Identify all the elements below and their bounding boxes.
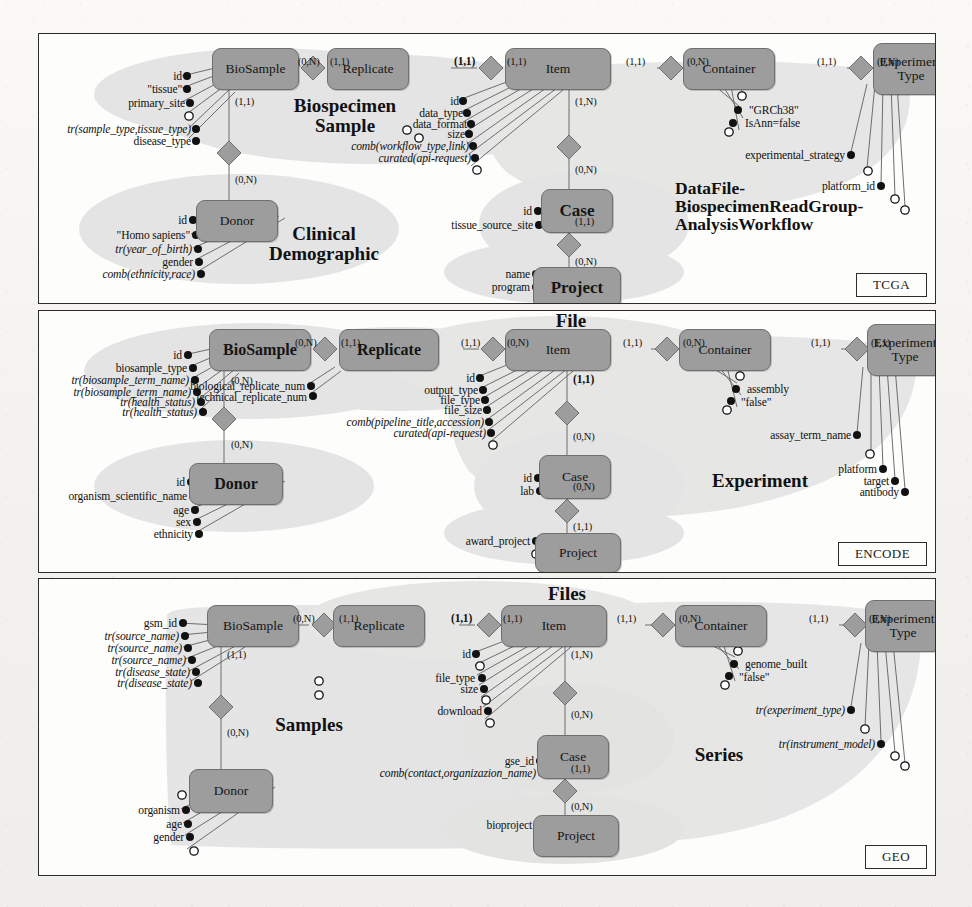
entity-case[interactable]: Case	[539, 455, 611, 499]
region-files: Files	[517, 584, 617, 604]
attribute-label: id	[178, 214, 187, 227]
source-tag-tcga: TCGA	[856, 273, 927, 297]
cardinality: (0,N)	[227, 727, 248, 738]
attribute-label: IsAnn=false	[745, 117, 800, 130]
attribute-label: "false"	[739, 671, 769, 684]
cardinality: (0,N)	[683, 337, 704, 348]
attribute-label: tr(disease_state)	[117, 677, 192, 690]
entity-container[interactable]: Container	[683, 48, 775, 90]
attribute-label: id	[462, 648, 471, 661]
attribute-label: tissue_source_site	[451, 219, 533, 232]
attribute-label: tr(year_of_birth)	[115, 243, 192, 256]
attribute-label: lab	[520, 485, 534, 498]
cardinality: (0,N)	[687, 56, 708, 67]
attribute-label: bioproject	[486, 819, 532, 832]
attribute-label: assembly	[747, 383, 789, 396]
region-file: File	[531, 311, 611, 331]
attribute-label: gender	[153, 831, 184, 844]
cardinality: (0,N)	[507, 337, 528, 348]
entity-project[interactable]: Project	[533, 815, 619, 857]
attribute-label: assay_term_name	[770, 429, 851, 442]
cardinality: (0,N)	[575, 256, 596, 267]
panel-geo: BioSample Replicate Item Container Exper…	[38, 578, 936, 876]
attribute-label: platform_id	[822, 180, 875, 193]
attribute-label: tr(health_status)	[122, 406, 197, 419]
cardinality: (1,1)	[339, 613, 358, 624]
cardinality: (0,N)	[231, 439, 252, 450]
entity-container[interactable]: Container	[679, 329, 771, 371]
attribute-label: "Homo sapiens"	[117, 229, 190, 242]
cardinality: (0,N)	[573, 431, 594, 442]
region-series: Series	[649, 745, 789, 765]
attribute-label: size	[461, 683, 478, 696]
attribute-label: age	[166, 818, 182, 831]
attribute-label: "GRCh38"	[749, 104, 799, 117]
region-biospecimen-sample: Biospecimen Sample	[255, 96, 435, 135]
cardinality: (0,N)	[293, 613, 314, 624]
entity-replicate[interactable]: Replicate	[339, 329, 439, 371]
attribute-label: disease_type	[134, 135, 191, 148]
entity-experiment-type[interactable]: Experiment Type	[865, 600, 936, 652]
cardinality: (0,N)	[679, 613, 700, 624]
entity-replicate[interactable]: Replicate	[333, 605, 425, 647]
attribute-label: curated(api-request)	[378, 152, 471, 165]
entity-item[interactable]: Item	[501, 605, 607, 647]
attribute-label: award_project	[466, 535, 530, 548]
cardinality: (1,1)	[573, 373, 594, 385]
attribute-label: "false"	[741, 396, 771, 409]
cardinality: (1,1)	[871, 337, 890, 348]
cardinality: (1,N)	[575, 96, 596, 107]
region-samples: Samples	[239, 715, 379, 735]
entity-biosample[interactable]: BioSample	[207, 605, 299, 647]
entity-donor[interactable]: Donor	[189, 463, 283, 505]
cardinality: (1,1)	[227, 649, 246, 660]
attribute-label: gsm_id	[144, 617, 177, 630]
entity-experiment-type[interactable]: Experiment Type	[873, 43, 936, 95]
cardinality: (0,N)	[235, 174, 256, 185]
attribute-label: experimental_strategy	[745, 149, 845, 162]
attribute-label: technical_replicate_num	[196, 391, 307, 404]
cardinality: (1,1)	[235, 96, 254, 107]
cardinality: (1,N)	[571, 649, 592, 660]
attribute-label: id	[176, 476, 185, 489]
attribute-label: primary_site	[128, 97, 185, 110]
attribute-label: "tissue"	[147, 83, 182, 96]
entity-item[interactable]: Item	[505, 48, 611, 90]
entity-donor[interactable]: Donor	[189, 769, 273, 813]
attribute-label: organism_scientific_name	[68, 490, 187, 503]
attribute-label: name	[505, 268, 530, 281]
cardinality: (0,N)	[573, 481, 594, 492]
cardinality: (1,1)	[571, 763, 590, 774]
cardinality: (1,1)	[809, 613, 828, 624]
panel-encode: BioSample Replicate Item Container Exper…	[38, 310, 936, 573]
cardinality: (1,1)	[451, 612, 472, 624]
entity-item[interactable]: Item	[505, 329, 611, 371]
attribute-label: antibody	[860, 486, 899, 499]
cardinality: (1,1)	[575, 216, 594, 227]
attribute-label: download	[437, 705, 482, 718]
cardinality: (1,1)	[330, 56, 349, 67]
entity-project[interactable]: Project	[533, 267, 621, 304]
entity-biosample[interactable]: BioSample	[209, 329, 311, 371]
panel-tcga: BioSample Replicate Item Container Exper…	[38, 33, 936, 304]
entity-project[interactable]: Project	[535, 533, 621, 573]
entity-experiment-type[interactable]: Experiment Type	[867, 324, 936, 376]
attribute-label: tr(instrument_model)	[779, 738, 875, 751]
cardinality: (1,1)	[623, 337, 642, 348]
attribute-label: comb(ethnicity,race)	[102, 268, 195, 281]
entity-replicate[interactable]: Replicate	[327, 48, 409, 90]
cardinality: (1,1)	[507, 56, 526, 67]
cardinality: (1,1)	[503, 613, 522, 624]
attribute-label: genome_built	[745, 658, 807, 671]
entity-donor[interactable]: Donor	[196, 200, 278, 242]
attribute-label: id	[523, 205, 532, 218]
entity-biosample[interactable]: BioSample	[212, 48, 299, 90]
cardinality: (1,1)	[811, 337, 830, 348]
entity-container[interactable]: Container	[675, 605, 767, 647]
cardinality: (0,N)	[571, 801, 592, 812]
cardinality: (1,1)	[341, 337, 360, 348]
cardinality: (0,N)	[298, 56, 319, 67]
attribute-label: id	[173, 70, 182, 83]
attribute-label: id	[523, 472, 532, 485]
region-datafile-workflow: DataFile- BiospecimenReadGroup- Analysis…	[675, 179, 925, 233]
